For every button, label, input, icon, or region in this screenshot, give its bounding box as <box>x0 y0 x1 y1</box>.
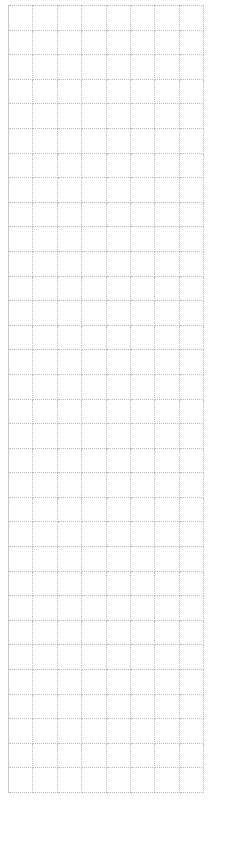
grid-cell[interactable] <box>106 596 130 621</box>
grid-cell[interactable] <box>179 473 203 498</box>
grid-cell[interactable] <box>57 6 81 31</box>
grid-cell[interactable] <box>106 251 130 276</box>
grid-cell[interactable] <box>155 743 179 768</box>
grid-cell[interactable] <box>106 6 130 31</box>
grid-cell[interactable] <box>82 104 106 129</box>
grid-cell[interactable] <box>106 128 130 153</box>
grid-cell[interactable] <box>33 473 57 498</box>
grid-cell[interactable] <box>179 670 203 695</box>
grid-cell[interactable] <box>106 473 130 498</box>
grid-cell[interactable] <box>82 694 106 719</box>
grid-cell[interactable] <box>155 694 179 719</box>
grid-cell[interactable] <box>155 522 179 547</box>
grid-cell[interactable] <box>57 547 81 572</box>
grid-cell[interactable] <box>106 374 130 399</box>
grid-cell[interactable] <box>9 350 33 375</box>
grid-cell[interactable] <box>57 350 81 375</box>
grid-cell[interactable] <box>179 497 203 522</box>
grid-cell[interactable] <box>106 645 130 670</box>
grid-cell[interactable] <box>106 448 130 473</box>
grid-cell[interactable] <box>155 768 179 793</box>
grid-cell[interactable] <box>33 448 57 473</box>
grid-cell[interactable] <box>33 178 57 203</box>
grid-cell[interactable] <box>82 596 106 621</box>
grid-cell[interactable] <box>33 30 57 55</box>
grid-cell[interactable] <box>179 350 203 375</box>
grid-cell[interactable] <box>33 596 57 621</box>
grid-cell[interactable] <box>155 645 179 670</box>
grid-cell[interactable] <box>9 30 33 55</box>
grid-cell[interactable] <box>33 202 57 227</box>
grid-cell[interactable] <box>82 645 106 670</box>
grid-cell[interactable] <box>9 547 33 572</box>
grid-cell[interactable] <box>130 55 154 80</box>
grid-cell[interactable] <box>155 178 179 203</box>
grid-cell[interactable] <box>130 350 154 375</box>
grid-cell[interactable] <box>130 227 154 252</box>
grid-cell[interactable] <box>9 645 33 670</box>
grid-cell[interactable] <box>155 424 179 449</box>
grid-cell[interactable] <box>9 424 33 449</box>
grid-cell[interactable] <box>155 670 179 695</box>
grid-cell[interactable] <box>33 301 57 326</box>
grid-cell[interactable] <box>155 251 179 276</box>
grid-cell[interactable] <box>179 178 203 203</box>
grid-cell[interactable] <box>9 768 33 793</box>
grid-cell[interactable] <box>179 251 203 276</box>
grid-cell[interactable] <box>9 571 33 596</box>
spreadsheet-grid[interactable] <box>8 5 204 793</box>
grid-cell[interactable] <box>57 522 81 547</box>
grid-cell[interactable] <box>82 424 106 449</box>
grid-cell[interactable] <box>155 6 179 31</box>
grid-cell[interactable] <box>57 104 81 129</box>
grid-cell[interactable] <box>33 719 57 744</box>
grid-cell[interactable] <box>155 448 179 473</box>
grid-cell[interactable] <box>9 178 33 203</box>
grid-cell[interactable] <box>106 202 130 227</box>
grid-cell[interactable] <box>33 571 57 596</box>
grid-cell[interactable] <box>82 30 106 55</box>
grid-cell[interactable] <box>155 227 179 252</box>
grid-cell[interactable] <box>155 620 179 645</box>
grid-cell[interactable] <box>9 104 33 129</box>
grid-cell[interactable] <box>57 251 81 276</box>
grid-cell[interactable] <box>130 694 154 719</box>
grid-cell[interactable] <box>82 473 106 498</box>
grid-cell[interactable] <box>82 153 106 178</box>
grid-cell[interactable] <box>179 448 203 473</box>
grid-cell[interactable] <box>57 325 81 350</box>
grid-cell[interactable] <box>57 202 81 227</box>
grid-cell[interactable] <box>106 694 130 719</box>
grid-cell[interactable] <box>130 473 154 498</box>
grid-cell[interactable] <box>57 645 81 670</box>
grid-cell[interactable] <box>179 547 203 572</box>
grid-cell[interactable] <box>82 251 106 276</box>
grid-cell[interactable] <box>9 620 33 645</box>
grid-cell[interactable] <box>155 473 179 498</box>
grid-cell[interactable] <box>155 399 179 424</box>
grid-cell[interactable] <box>155 497 179 522</box>
grid-cell[interactable] <box>82 620 106 645</box>
grid-cell[interactable] <box>82 448 106 473</box>
grid-cell[interactable] <box>82 79 106 104</box>
grid-cell[interactable] <box>155 153 179 178</box>
grid-cell[interactable] <box>155 596 179 621</box>
grid-cell[interactable] <box>179 571 203 596</box>
grid-cell[interactable] <box>9 227 33 252</box>
grid-cell[interactable] <box>33 743 57 768</box>
grid-cell[interactable] <box>106 620 130 645</box>
grid-cell[interactable] <box>57 424 81 449</box>
grid-cell[interactable] <box>9 276 33 301</box>
grid-cell[interactable] <box>179 522 203 547</box>
grid-cell[interactable] <box>130 645 154 670</box>
grid-cell[interactable] <box>155 325 179 350</box>
grid-cell[interactable] <box>106 350 130 375</box>
grid-cell[interactable] <box>179 79 203 104</box>
grid-cell[interactable] <box>9 325 33 350</box>
grid-cell[interactable] <box>57 301 81 326</box>
grid-cell[interactable] <box>9 399 33 424</box>
grid-cell[interactable] <box>155 374 179 399</box>
grid-cell[interactable] <box>130 325 154 350</box>
grid-cell[interactable] <box>130 128 154 153</box>
grid-cell[interactable] <box>130 301 154 326</box>
